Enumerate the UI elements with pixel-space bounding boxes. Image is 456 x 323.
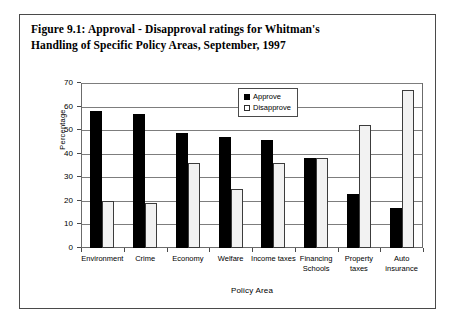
figure-title-line-1: Figure 9.1: Approval - Disapproval ratin… bbox=[31, 22, 361, 38]
y-axis-tick bbox=[77, 153, 81, 154]
bar-disapprove-welfare bbox=[231, 189, 243, 248]
x-axis-tick bbox=[295, 248, 296, 252]
bar-approve-auto-insurance bbox=[390, 208, 402, 248]
y-axis-tick-label: 60 bbox=[47, 102, 73, 111]
y-axis-tick bbox=[77, 82, 81, 83]
y-axis-tick bbox=[77, 176, 81, 177]
bar-approve-environment bbox=[90, 111, 102, 248]
bar-approve-property-taxes bbox=[347, 194, 359, 248]
x-axis-tick bbox=[124, 248, 125, 252]
figure-container: Figure 9.1: Approval - Disapproval ratin… bbox=[19, 14, 436, 309]
chart-legend: Approve Disapprove bbox=[238, 88, 298, 117]
y-axis-tick-label: 50 bbox=[47, 125, 73, 134]
x-axis-tick bbox=[252, 248, 253, 252]
figure-title: Figure 9.1: Approval - Disapproval ratin… bbox=[31, 22, 361, 53]
y-axis-tick-label: 70 bbox=[47, 78, 73, 87]
legend-label-disapprove: Disapprove bbox=[253, 103, 291, 112]
y-axis-tick-label: 40 bbox=[47, 149, 73, 158]
bar-approve-financing-schools bbox=[304, 158, 316, 248]
x-axis-title: Policy Area bbox=[81, 286, 423, 295]
x-axis-tick bbox=[338, 248, 339, 252]
bar-disapprove-auto-insurance bbox=[402, 90, 414, 248]
y-axis-tick-label: 10 bbox=[47, 219, 73, 228]
bar-chart: Percentage 010203040506070 EnvironmentCr… bbox=[20, 67, 435, 308]
bar-approve-crime bbox=[133, 114, 145, 248]
y-axis-tick-label: 20 bbox=[47, 196, 73, 205]
x-axis-tick bbox=[81, 248, 82, 252]
x-axis-tick-label-line: insurance bbox=[376, 264, 427, 274]
figure-title-line-2: Handling of Specific Policy Areas, Septe… bbox=[31, 38, 361, 54]
bar-approve-income-taxes bbox=[261, 140, 273, 248]
x-axis-tick bbox=[380, 248, 381, 252]
y-axis-tick bbox=[77, 223, 81, 224]
y-axis-tick-label: 30 bbox=[47, 172, 73, 181]
bar-disapprove-financing-schools bbox=[316, 158, 328, 248]
bar-disapprove-crime bbox=[145, 203, 157, 248]
bar-disapprove-property-taxes bbox=[359, 125, 371, 248]
bar-approve-welfare bbox=[219, 137, 231, 248]
bar-disapprove-economy bbox=[188, 163, 200, 248]
legend-label-approve: Approve bbox=[253, 92, 281, 101]
y-axis-tick bbox=[77, 200, 81, 201]
y-axis-tick-label: 0 bbox=[47, 243, 73, 252]
legend-swatch-approve-icon bbox=[244, 94, 250, 100]
x-axis-tick-label-line: Auto bbox=[376, 254, 427, 264]
x-axis-tick bbox=[167, 248, 168, 252]
legend-swatch-disapprove-icon bbox=[244, 105, 250, 111]
x-axis-tick bbox=[423, 248, 424, 252]
legend-item-disapprove: Disapprove bbox=[244, 102, 291, 113]
bar-disapprove-income-taxes bbox=[273, 163, 285, 248]
bar-approve-economy bbox=[176, 133, 188, 249]
y-axis-tick bbox=[77, 129, 81, 130]
bar-disapprove-environment bbox=[102, 201, 114, 248]
x-axis-tick-label: Autoinsurance bbox=[376, 254, 427, 273]
gridline bbox=[82, 83, 422, 84]
legend-item-approve: Approve bbox=[244, 91, 291, 102]
y-axis-tick bbox=[77, 106, 81, 107]
x-axis-tick bbox=[209, 248, 210, 252]
